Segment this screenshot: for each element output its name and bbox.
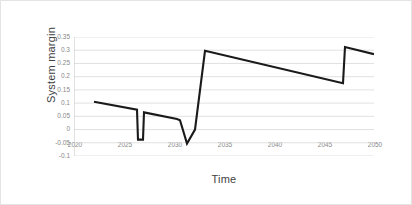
y-tick-label-9: -0.1 bbox=[46, 152, 70, 159]
plot-area bbox=[74, 37, 374, 156]
y-tick-label-3: 0.2 bbox=[46, 72, 70, 79]
y-tick-label-6: 0.05 bbox=[46, 112, 70, 119]
y-tick-label-0: 0.35 bbox=[46, 33, 70, 40]
y-tick-label-4: 0.15 bbox=[46, 86, 70, 93]
x-axis-title: Time bbox=[74, 173, 374, 185]
y-tick-label-5: 0.1 bbox=[46, 99, 70, 106]
y-tick-label-1: 0.3 bbox=[46, 46, 70, 53]
y-tick-label-2: 0.25 bbox=[46, 59, 70, 66]
chart-container: System margin Time 0.35 0.3 0.25 0.2 0.1… bbox=[0, 0, 412, 205]
y-tick-label-7: 0 bbox=[46, 125, 70, 132]
data-line-system-margin bbox=[94, 47, 374, 144]
chart-plot-svg bbox=[74, 37, 374, 156]
